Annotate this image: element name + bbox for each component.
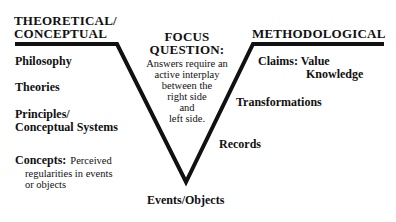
claims-detail-line: Knowledge: [258, 68, 363, 81]
concepts-detail-line: regularities in events: [15, 168, 112, 179]
concepts-label: Concepts:: [15, 153, 66, 167]
principles-conceptual-systems-label: Principles/ Conceptual Systems: [15, 108, 118, 134]
focus-body-line: active interplay: [137, 69, 237, 80]
focus-body-line: between the: [137, 80, 237, 91]
methodological-heading: METHODOLOGICAL: [252, 27, 386, 40]
records-label: Records: [219, 138, 261, 151]
concepts-block: Concepts: Perceived regularities in even…: [15, 150, 112, 190]
label-line: Conceptual Systems: [15, 121, 118, 134]
focus-body-line: right side: [137, 91, 237, 102]
focus-question: FOCUS QUESTION: Answers require an activ…: [137, 30, 237, 124]
focus-body-line: Answers require an: [137, 58, 237, 69]
events-objects-label: Events/Objects: [147, 194, 224, 207]
claims-detail-line: Value: [301, 54, 330, 68]
concepts-detail-line: or objects: [15, 179, 112, 190]
transformations-label: Transformations: [236, 96, 322, 109]
focus-body-line: and: [137, 102, 237, 113]
claims-block: Claims: Value Knowledge: [258, 55, 363, 81]
heading-line: CONCEPTUAL: [14, 27, 117, 40]
claims-label: Claims:: [258, 54, 298, 68]
theories-label: Theories: [15, 81, 60, 94]
focus-heading-line: QUESTION:: [137, 43, 237, 56]
philosophy-label: Philosophy: [15, 55, 72, 68]
theoretical-conceptual-heading: THEORETICAL/ CONCEPTUAL: [14, 14, 117, 40]
focus-body-line: left side.: [137, 113, 237, 124]
concepts-detail-line: Perceived: [70, 155, 111, 166]
